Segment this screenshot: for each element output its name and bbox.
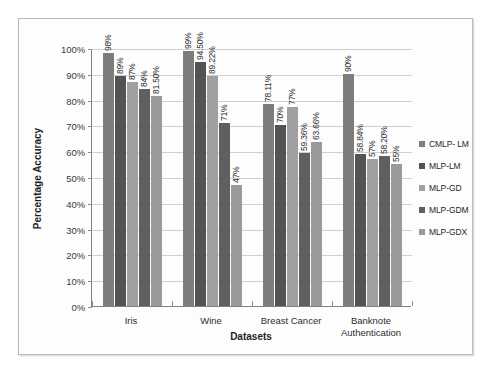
bar-value-label: 70% xyxy=(275,107,285,123)
y-tick-label: 50% xyxy=(66,173,85,184)
bar-value-label: 59.36% xyxy=(299,123,309,151)
bar[interactable]: 89.22% xyxy=(207,76,218,306)
bar-value-label: 89% xyxy=(115,58,125,74)
x-axis-category-label: Iris xyxy=(91,315,171,327)
bar-slot: 94.50% xyxy=(195,48,206,306)
bar[interactable]: 90% xyxy=(343,74,354,306)
legend-item[interactable]: MLP-GDX xyxy=(419,221,475,243)
x-axis-category-label: Wine xyxy=(171,315,251,327)
figure-frame: Percentage Accuracy 100%90%80%70%60%50%4… xyxy=(18,18,473,355)
bar[interactable]: 84% xyxy=(139,89,150,306)
category-separator xyxy=(332,301,333,306)
bar-group: 98%89%87%84%81.50% xyxy=(92,48,172,306)
legend-item[interactable]: MLP-GD xyxy=(419,177,475,199)
legend-label: MLP-GDX xyxy=(429,227,467,237)
bar-value-label: 63.66% xyxy=(311,112,321,140)
bar-value-label: 71% xyxy=(219,104,229,120)
category-separator xyxy=(172,301,173,306)
bar-slot: 84% xyxy=(139,48,150,306)
x-axis-category-label: Breast Cancer xyxy=(251,315,331,327)
bar-value-label: 81.50% xyxy=(151,66,161,94)
bar[interactable]: 63.66% xyxy=(311,142,322,306)
y-tick-label: 100% xyxy=(61,44,85,55)
bar-value-label: 55% xyxy=(391,146,401,162)
bar-group: 99%94.50%89.22%71%47% xyxy=(172,48,252,306)
y-tick-label: 0% xyxy=(71,302,85,313)
bar-slot: 47% xyxy=(231,48,242,306)
bar[interactable]: 55% xyxy=(391,164,402,306)
y-tick-label: 80% xyxy=(66,95,85,106)
bar-slot: 70% xyxy=(275,48,286,306)
y-axis-title-text: Percentage Accuracy xyxy=(33,127,44,228)
y-axis-title: Percentage Accuracy xyxy=(31,49,45,307)
bar-value-label: 84% xyxy=(139,71,149,87)
bar-value-label: 47% xyxy=(231,166,241,182)
bar-slot: 71% xyxy=(219,48,230,306)
legend-swatch-icon xyxy=(419,229,425,235)
bar[interactable]: 59.36% xyxy=(299,153,310,306)
bar-slot: 90% xyxy=(343,48,354,306)
bar[interactable]: 87% xyxy=(127,82,138,306)
bar[interactable]: 58.84% xyxy=(355,154,366,306)
bar-slot: 89% xyxy=(115,48,126,306)
bar-slot: 78.11% xyxy=(263,48,274,306)
bar-groups: 98%89%87%84%81.50%99%94.50%89.22%71%47%7… xyxy=(92,48,412,306)
category-separator xyxy=(412,301,413,306)
legend-item[interactable]: CMLP- LM xyxy=(419,133,475,155)
bar-slot: 77% xyxy=(287,48,298,306)
bar-value-label: 87% xyxy=(127,63,137,79)
legend-label: CMLP- LM xyxy=(429,139,469,149)
bar-value-label: 90% xyxy=(343,55,353,71)
bar[interactable]: 89% xyxy=(115,76,126,306)
bar-slot: 81.50% xyxy=(151,48,162,306)
legend-swatch-icon xyxy=(419,163,425,169)
bar[interactable]: 98% xyxy=(103,53,114,306)
bar-slot: 98% xyxy=(103,48,114,306)
bar[interactable]: 81.50% xyxy=(151,96,162,306)
bar[interactable]: 77% xyxy=(287,107,298,306)
bar[interactable]: 47% xyxy=(231,185,242,306)
legend-swatch-icon xyxy=(419,207,425,213)
y-tick-label: 20% xyxy=(66,250,85,261)
legend-item[interactable]: MLP-LM xyxy=(419,155,475,177)
x-axis-title: Datasets xyxy=(91,331,411,342)
plot-area: 100%90%80%70%60%50%40%30%20%10%0% 98%89%… xyxy=(91,49,411,307)
bar-group: 78.11%70%77%59.36%63.66% xyxy=(252,48,332,306)
y-tick-label: 90% xyxy=(66,69,85,80)
y-tick-label: 40% xyxy=(66,198,85,209)
bar[interactable]: 58.20% xyxy=(379,156,390,306)
bar-group: 90%58.84%57%58.20%55% xyxy=(332,48,412,306)
y-tick-label: 10% xyxy=(66,276,85,287)
legend-item[interactable]: MLP-GDM xyxy=(419,199,475,221)
bar-slot: 89.22% xyxy=(207,48,218,306)
legend-label: MLP-GD xyxy=(429,183,461,193)
legend-label: MLP-LM xyxy=(429,161,461,171)
bar[interactable]: 71% xyxy=(219,123,230,306)
bar-chart: Percentage Accuracy 100%90%80%70%60%50%4… xyxy=(19,19,474,356)
chart-legend: CMLP- LMMLP-LMMLP-GDMLP-GDMMLP-GDX xyxy=(419,133,475,243)
bar-value-label: 58.20% xyxy=(379,126,389,154)
bar[interactable]: 70% xyxy=(275,125,286,306)
category-separator xyxy=(92,301,93,306)
bar[interactable]: 57% xyxy=(367,159,378,306)
y-tick-label: 70% xyxy=(66,121,85,132)
bar-value-label: 89.22% xyxy=(207,46,217,74)
bar-value-label: 77% xyxy=(287,89,297,105)
bar-slot: 59.36% xyxy=(299,48,310,306)
y-tick-label: 60% xyxy=(66,147,85,158)
category-separator xyxy=(252,301,253,306)
bar[interactable]: 94.50% xyxy=(195,62,206,306)
bar-slot: 99% xyxy=(183,48,194,306)
bar[interactable]: 78.11% xyxy=(263,104,274,306)
legend-swatch-icon xyxy=(419,185,425,191)
legend-label: MLP-GDM xyxy=(429,205,468,215)
bar[interactable]: 99% xyxy=(183,51,194,306)
bar-value-label: 58.84% xyxy=(355,125,365,153)
bar-slot: 87% xyxy=(127,48,138,306)
bar-slot: 63.66% xyxy=(311,48,322,306)
y-tick-mark xyxy=(88,307,92,308)
bar-value-label: 99% xyxy=(183,32,193,48)
bar-slot: 57% xyxy=(367,48,378,306)
bar-slot: 58.84% xyxy=(355,48,366,306)
bar-value-label: 57% xyxy=(367,141,377,157)
